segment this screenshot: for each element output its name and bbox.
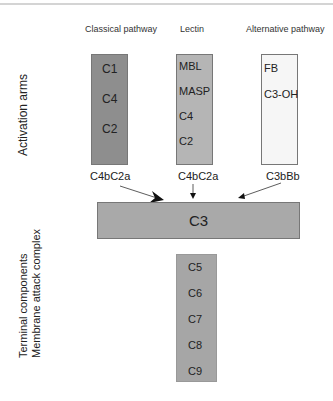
component-c7: C7 <box>188 313 202 325</box>
arrows <box>0 0 333 401</box>
c3-label: C3 <box>98 212 299 229</box>
terminal-components-box: C5 C6 C7 C8 C9 <box>176 254 217 382</box>
component-c6: C6 <box>188 287 202 299</box>
arrow-lectin-to-c3 <box>190 184 196 199</box>
component-c9: C9 <box>188 365 202 377</box>
arrow-alternative-to-c3 <box>238 183 281 199</box>
component-c5: C5 <box>188 261 202 273</box>
component-c8: C8 <box>188 339 202 351</box>
c3-box: C3 <box>97 202 300 239</box>
arrow-classical-to-c3 <box>120 186 164 203</box>
